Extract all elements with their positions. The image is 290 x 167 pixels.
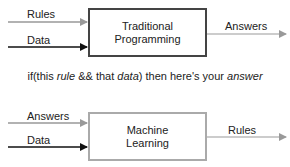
rules-output-label: Rules bbox=[228, 124, 256, 136]
answers-input-label: Answers bbox=[27, 110, 69, 122]
box-line-2: Programming bbox=[114, 33, 180, 46]
caption-answer: answer bbox=[227, 70, 262, 82]
caption-data: data bbox=[117, 70, 138, 82]
traditional-programming-box: Traditional Programming bbox=[88, 8, 207, 57]
box-line-1: Traditional bbox=[122, 20, 173, 33]
box-line-2: Learning bbox=[126, 137, 169, 150]
answers-output-label: Answers bbox=[225, 20, 267, 32]
data-input-label-ml: Data bbox=[27, 134, 50, 146]
caption-text: && that bbox=[75, 70, 117, 82]
box-line-1: Machine bbox=[127, 124, 169, 137]
caption: if(this rule && that data) then here's y… bbox=[0, 70, 290, 83]
machine-learning-box: Machine Learning bbox=[88, 112, 207, 161]
rules-input-label: Rules bbox=[27, 8, 55, 20]
caption-rule: rule bbox=[57, 70, 75, 82]
data-input-label: Data bbox=[27, 34, 50, 46]
caption-text: ) then here's your bbox=[139, 70, 227, 82]
caption-text: if(this bbox=[27, 70, 56, 82]
